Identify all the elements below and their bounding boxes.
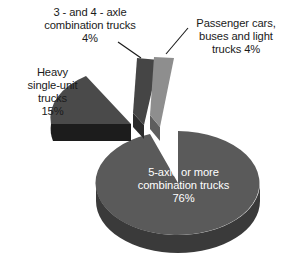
leader-line-passenger-cars	[166, 28, 188, 54]
slice-label-three-four-axle: 3 - and 4 - axle combination trucks 4%	[27, 6, 153, 45]
slice-label-passenger-cars: Passenger cars, buses and light trucks 4…	[186, 17, 286, 56]
slice-label-heavy-single-unit: Heavy single-unit trucks 15%	[6, 66, 99, 118]
pie-slice-heavy-single-unit-side	[51, 124, 131, 141]
pie-slice-passenger-cars[interactable]	[150, 57, 174, 141]
slice-label-five-axle-more: 5-axle or more combination trucks 76%	[116, 166, 251, 205]
pie-slice-passenger-cars-top	[150, 57, 174, 127]
pie-chart: 3 - and 4 - axle combination trucks 4% P…	[0, 0, 291, 261]
